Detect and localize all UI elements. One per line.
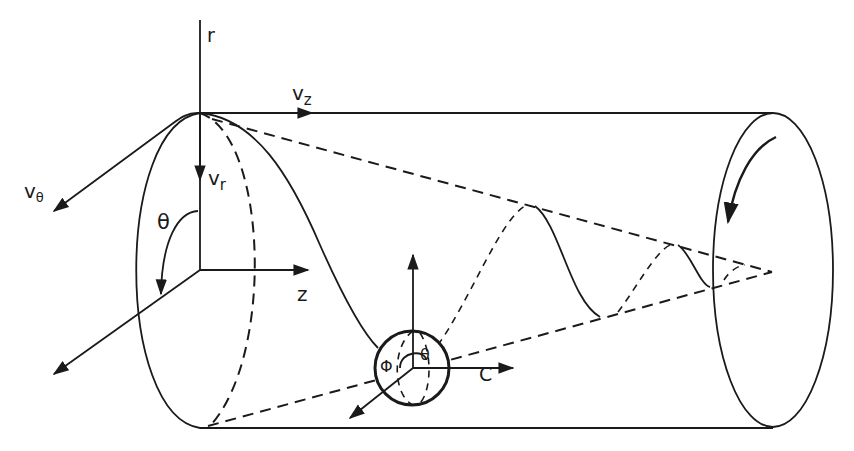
label-v-r: vr: [208, 166, 227, 194]
cone-lower: [208, 272, 772, 426]
helix-front-3: [678, 245, 710, 287]
label-r-axis: r: [207, 24, 215, 46]
v-theta-arrow: [54, 113, 200, 211]
helix-back-3: [724, 265, 745, 280]
helix-front-1: [200, 113, 378, 348]
coordinate-axes: [54, 20, 312, 374]
label-theta: θ: [157, 210, 170, 234]
label-v-z: vz: [292, 81, 312, 109]
helix-front-2: [535, 206, 600, 317]
cylinder-helix-diagram: r z vz vr vθ θ θ Φ C: [0, 0, 854, 451]
label-rotation-symbol: C: [479, 363, 492, 385]
label-v-theta: vθ: [24, 179, 44, 205]
label-z-axis: z: [297, 282, 308, 306]
label-particle-phi: Φ: [380, 357, 393, 376]
left-end-front: [136, 113, 200, 428]
right-end: [713, 113, 833, 427]
particle: [350, 255, 513, 418]
label-particle-theta: θ: [420, 345, 430, 364]
x-axis: [54, 270, 200, 374]
helix-back-1: [438, 206, 525, 345]
